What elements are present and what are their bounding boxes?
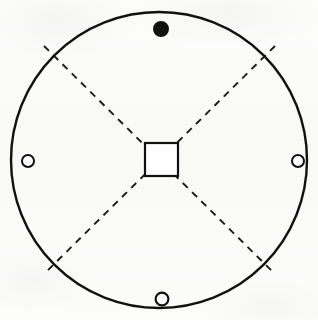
figure-canvas [0,0,318,320]
marker-bottom-hollow-icon [156,293,169,306]
circular-plate-diagram [0,0,318,320]
marker-right-hollow-icon [292,155,304,167]
central-square [145,143,178,176]
marker-left-hollow-icon [22,155,34,167]
marker-top-filled-icon [154,22,168,36]
